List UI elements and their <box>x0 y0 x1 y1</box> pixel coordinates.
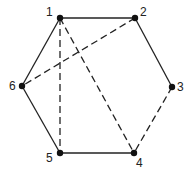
edge-1-6-solid <box>22 18 60 86</box>
node-label-2: 2 <box>140 6 147 18</box>
node-label-5: 5 <box>46 152 53 164</box>
node-6 <box>19 83 25 89</box>
node-3 <box>169 84 175 90</box>
node-2 <box>132 15 138 21</box>
edge-2-3-solid <box>135 18 172 87</box>
node-label-3: 3 <box>177 81 184 93</box>
node-5 <box>57 150 63 156</box>
node-1 <box>57 15 63 21</box>
edge-3-4-dashed <box>134 87 172 153</box>
node-label-1: 1 <box>46 6 53 18</box>
edge-1-4-dashed <box>60 18 134 153</box>
graph-diagram: 123456 <box>0 0 192 171</box>
graph-canvas <box>0 0 192 171</box>
edge-6-5-solid <box>22 86 60 153</box>
node-label-6: 6 <box>9 80 16 92</box>
node-label-4: 4 <box>136 157 143 169</box>
